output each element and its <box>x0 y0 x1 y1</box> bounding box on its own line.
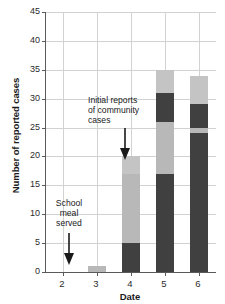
x-tick-mark <box>97 272 98 276</box>
arrow-down-icon-community <box>118 128 132 162</box>
y-tick-label: 0 <box>20 267 40 276</box>
x-tick-label: 2 <box>51 279 73 289</box>
y-tick-mark <box>42 243 46 244</box>
x-tick-mark <box>131 272 132 276</box>
annotation-school-meal-served: School meal served <box>48 198 90 228</box>
y-tick-mark <box>42 99 46 100</box>
y-tick-label: 40 <box>20 36 40 45</box>
y-tick-mark <box>42 70 46 71</box>
y-tick-mark <box>42 41 46 42</box>
bar-segment <box>122 243 140 272</box>
y-tick-label: 35 <box>20 65 40 74</box>
y-tick-label: 20 <box>20 151 40 160</box>
bar-segment <box>156 70 174 93</box>
bar-segment <box>122 174 140 243</box>
x-axis-title: Date <box>45 291 215 302</box>
bar-segment <box>190 104 208 127</box>
y-tick-mark <box>42 12 46 13</box>
x-tick-label: 4 <box>119 279 141 289</box>
x-tick-mark <box>165 272 166 276</box>
annotation-initial-reports-community-cases: Initial reports of community cases <box>88 95 166 125</box>
y-tick-mark <box>42 185 46 186</box>
chart-figure: Number of reported cases 051015202530354… <box>0 0 225 304</box>
x-tick-mark <box>63 272 64 276</box>
y-tick-label: 25 <box>20 123 40 132</box>
y-tick-label: 5 <box>20 238 40 247</box>
bar-segment <box>190 76 208 105</box>
x-tick-mark <box>199 272 200 276</box>
y-tick-mark <box>42 272 46 273</box>
y-tick-mark <box>42 156 46 157</box>
y-tick-label: 15 <box>20 180 40 189</box>
bar-segment <box>88 266 106 272</box>
bar-segment <box>190 133 208 272</box>
x-tick-label: 3 <box>85 279 107 289</box>
y-tick-label: 30 <box>20 94 40 103</box>
bar-stack <box>190 12 208 272</box>
bar-stack <box>88 12 106 272</box>
arrow-down-icon-school <box>62 233 76 267</box>
x-tick-label: 5 <box>153 279 175 289</box>
bar-stack <box>156 12 174 272</box>
bar-segment <box>156 174 174 272</box>
y-tick-mark <box>42 214 46 215</box>
bar-segment <box>190 128 208 134</box>
x-tick-label: 6 <box>187 279 209 289</box>
y-tick-mark <box>42 128 46 129</box>
y-tick-label: 45 <box>20 7 40 16</box>
y-axis-tick-labels: 051015202530354045 <box>14 0 40 304</box>
y-tick-label: 10 <box>20 209 40 218</box>
bar-segment <box>156 122 174 174</box>
